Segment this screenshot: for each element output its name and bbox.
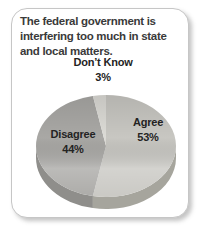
slice-label-agree: Agree 53% [117, 115, 179, 145]
slice-label-dont-know: Don’t Know 3% [63, 55, 143, 85]
slice-label-dont-know-name: Don’t Know [63, 55, 143, 70]
slice-label-dont-know-pct: 3% [63, 70, 143, 85]
slice-label-disagree-name: Disagree [42, 127, 104, 142]
slice-label-disagree: Disagree 44% [42, 127, 104, 157]
slice-label-agree-pct: 53% [117, 130, 179, 145]
chart-title-line-2: interfering too much in state [20, 29, 167, 44]
slice-label-disagree-pct: 44% [42, 142, 104, 157]
chart-title-line-1: The federal government is [20, 14, 167, 29]
chart-title: The federal government is interfering to… [20, 14, 167, 59]
slice-label-agree-name: Agree [117, 115, 179, 130]
